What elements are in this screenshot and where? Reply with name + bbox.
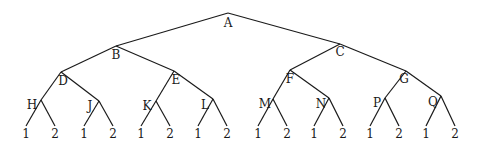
edge-c-g: [340, 44, 406, 71]
node-label-l: L: [201, 98, 209, 112]
leaf-label-j-1: 1: [80, 127, 88, 141]
node-label-f: F: [286, 72, 294, 86]
leaf-label-m-1: 1: [254, 127, 262, 141]
node-label-b: B: [112, 48, 121, 62]
node-label-k: K: [143, 99, 153, 113]
leaf-label-h-2: 2: [51, 127, 59, 141]
leaf-label-k-1: 1: [137, 127, 145, 141]
leaf-label-k-2: 2: [166, 127, 174, 141]
leaf-label-l-2: 2: [223, 127, 231, 141]
tree-diagram: ABCDEFGHJKLMNPQ 1212121212121212: [0, 0, 483, 148]
leaf-label-h-1: 1: [22, 127, 30, 141]
leaf-label-p-1: 1: [366, 127, 374, 141]
leaf-label-n-1: 1: [310, 127, 318, 141]
node-label-e: E: [172, 73, 181, 87]
edge-a-b: [116, 13, 228, 46]
edge-l-leaf-2: [213, 99, 227, 126]
edge-h-leaf-2: [41, 100, 55, 126]
leaf-label-l-1: 1: [194, 127, 202, 141]
node-label-j: J: [86, 99, 93, 113]
edge-m-leaf-2: [273, 99, 287, 126]
tree-node-labels: ABCDEFGHJKLMNPQ: [27, 16, 438, 113]
node-label-m: M: [259, 97, 271, 111]
edge-k-leaf-2: [156, 101, 170, 126]
leaf-label-j-2: 2: [109, 127, 117, 141]
edge-b-d: [61, 46, 116, 72]
edge-a-c: [228, 13, 340, 44]
leaf-label-p-2: 2: [395, 127, 403, 141]
edge-n-leaf-2: [329, 98, 343, 126]
leaf-label-n-2: 2: [339, 127, 347, 141]
leaf-label-q-2: 2: [451, 127, 459, 141]
node-label-n: N: [316, 97, 327, 111]
node-label-q: Q: [428, 95, 438, 109]
edge-c-f: [290, 44, 340, 70]
leaf-label-q-1: 1: [422, 127, 430, 141]
edge-q-leaf-2: [441, 96, 455, 126]
node-label-a: A: [223, 16, 233, 30]
node-label-c: C: [335, 45, 344, 59]
node-label-d: D: [58, 74, 68, 88]
edge-f-n: [290, 70, 329, 98]
edge-p-leaf-2: [385, 98, 399, 126]
node-label-g: G: [399, 72, 409, 86]
tree-edges: [41, 13, 441, 101]
edge-j-leaf-2: [99, 101, 113, 126]
edge-g-q: [406, 71, 441, 96]
edge-b-e: [116, 46, 174, 71]
leaf-label-m-2: 2: [283, 127, 291, 141]
